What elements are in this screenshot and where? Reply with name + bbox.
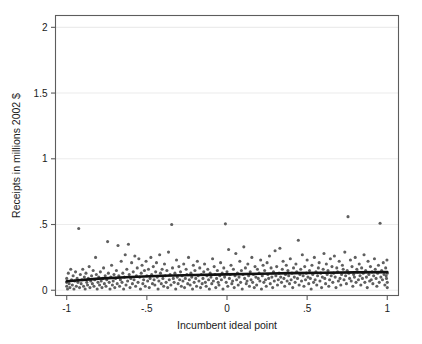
data-point xyxy=(298,283,301,286)
data-point xyxy=(268,255,271,258)
data-point xyxy=(237,283,240,286)
data-point xyxy=(79,273,82,276)
data-point xyxy=(214,286,217,289)
data-point xyxy=(116,282,119,285)
data-point xyxy=(188,278,191,281)
data-point xyxy=(353,276,356,279)
data-point xyxy=(149,256,152,259)
data-point xyxy=(210,282,213,285)
data-point xyxy=(178,278,181,281)
data-point xyxy=(245,282,248,285)
data-point xyxy=(157,279,160,282)
data-point xyxy=(208,287,211,290)
data-point xyxy=(242,245,245,248)
data-point xyxy=(315,283,318,286)
data-point xyxy=(274,249,277,252)
data-point xyxy=(250,256,253,259)
data-point xyxy=(277,278,280,281)
data-point xyxy=(136,266,139,269)
data-point xyxy=(165,269,168,272)
data-point xyxy=(377,264,380,267)
data-point xyxy=(141,264,144,267)
data-point xyxy=(320,286,323,289)
data-point xyxy=(128,286,131,289)
data-point xyxy=(358,262,361,265)
data-point xyxy=(330,265,333,268)
data-point xyxy=(270,266,273,269)
x-tick-label: -1 xyxy=(62,303,71,314)
data-point xyxy=(355,268,358,271)
data-point xyxy=(246,262,249,265)
data-point xyxy=(161,268,164,271)
data-point xyxy=(81,268,84,271)
data-point xyxy=(215,277,218,280)
data-point xyxy=(373,257,376,260)
data-point xyxy=(276,283,279,286)
data-point xyxy=(228,277,231,280)
data-point xyxy=(278,247,281,250)
data-point xyxy=(209,276,212,279)
data-point xyxy=(365,276,368,279)
data-point xyxy=(281,268,284,271)
data-point xyxy=(201,282,204,285)
data-point xyxy=(308,269,311,272)
data-point xyxy=(202,270,205,273)
data-point xyxy=(275,265,278,268)
data-point xyxy=(94,256,97,259)
data-point xyxy=(259,258,262,261)
data-point xyxy=(241,287,244,290)
data-point xyxy=(107,272,110,275)
data-point xyxy=(310,264,313,267)
data-point xyxy=(83,276,86,279)
data-point xyxy=(371,282,374,285)
data-point xyxy=(143,269,146,272)
data-point xyxy=(193,281,196,284)
data-point xyxy=(294,262,297,265)
data-point xyxy=(234,252,237,255)
data-point xyxy=(136,281,139,284)
data-point xyxy=(140,272,143,275)
data-point xyxy=(260,287,263,290)
data-point xyxy=(386,281,389,284)
data-point xyxy=(142,278,145,281)
data-point xyxy=(213,265,216,268)
data-point xyxy=(181,279,184,282)
data-point xyxy=(225,270,228,273)
data-point xyxy=(193,269,196,272)
data-point xyxy=(71,283,74,286)
data-point xyxy=(254,265,257,268)
data-point xyxy=(290,278,293,281)
data-point xyxy=(367,260,370,263)
data-point xyxy=(96,281,99,284)
data-point xyxy=(349,258,352,261)
data-point xyxy=(258,279,261,282)
data-point xyxy=(327,285,330,288)
data-point xyxy=(139,287,142,290)
data-point xyxy=(240,269,243,272)
x-tick-label: .5 xyxy=(303,303,312,314)
data-point xyxy=(346,215,349,218)
data-point xyxy=(289,257,292,260)
data-point xyxy=(243,277,246,280)
data-point xyxy=(231,279,234,282)
data-point xyxy=(115,269,118,272)
data-point xyxy=(227,248,230,251)
data-point xyxy=(280,281,283,284)
data-point xyxy=(359,283,362,286)
data-point xyxy=(124,283,127,286)
data-point xyxy=(204,281,207,284)
data-point xyxy=(385,258,388,261)
data-point xyxy=(282,260,285,263)
data-point xyxy=(168,278,171,281)
data-point xyxy=(350,279,353,282)
data-point xyxy=(310,287,313,290)
data-point xyxy=(343,251,346,254)
data-point xyxy=(122,287,125,290)
data-point xyxy=(198,266,201,269)
data-point xyxy=(383,283,386,286)
data-point xyxy=(300,279,303,282)
data-point xyxy=(192,264,195,267)
data-point xyxy=(325,262,328,265)
data-point xyxy=(92,269,95,272)
data-point xyxy=(221,287,224,290)
